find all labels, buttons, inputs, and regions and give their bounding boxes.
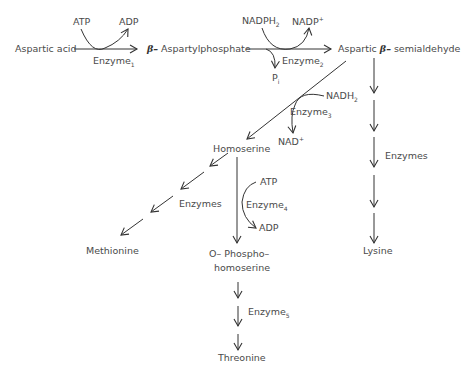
cofactor-atp-2: ATP	[260, 177, 277, 187]
cofactor-adp-1: ADP	[119, 17, 139, 27]
enzyme-1: Enzyme1	[93, 56, 135, 68]
beta-symbol: β–	[380, 43, 391, 54]
atp-adp-curve-1	[81, 29, 128, 49]
cofactor-nad: NAD+	[278, 136, 304, 147]
nadph-nadp-curve	[262, 28, 309, 49]
cofactor-nadph2: NADPH2	[242, 16, 280, 28]
node-methionine: Methionine	[86, 246, 139, 256]
node-aspartic-acid: Aspartic acid	[15, 44, 77, 54]
node-phospho-line1: O– Phospho–	[209, 249, 269, 259]
node-aspartylphosphate: β– Aspartylphosphate	[147, 44, 251, 54]
pathway-arrows	[0, 0, 462, 373]
cofactor-pi: Pi	[272, 73, 279, 85]
enzyme-5: Enzyme5	[248, 307, 290, 319]
enzyme-4: Enzyme4	[246, 200, 288, 212]
beta-symbol: β–	[147, 43, 158, 54]
node-lysine: Lysine	[363, 246, 393, 256]
node-homoserine: Homoserine	[213, 144, 270, 154]
cofactor-nadh2: NADH2	[326, 91, 358, 103]
enzyme-2: Enzyme2	[282, 56, 324, 68]
cofactor-adp-2: ADP	[259, 223, 279, 233]
enzymes-lysine-branch: Enzymes	[385, 151, 428, 161]
node-phospho-line2: homoserine	[214, 263, 270, 273]
enzymes-methionine-branch: Enzymes	[179, 199, 222, 209]
node-threonine: Threonine	[218, 353, 266, 363]
enzyme-3: Enzyme3	[290, 107, 332, 119]
cofactor-atp-1: ATP	[73, 17, 90, 27]
pi-release-curve	[266, 49, 275, 68]
cofactor-nadp: NADP+	[292, 16, 324, 27]
node-aspartic-semialdehyde: Aspartic β– semialdehyde	[338, 44, 460, 54]
